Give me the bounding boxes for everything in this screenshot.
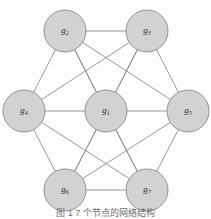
node-layer: g1g2g3g4g5g6g7 <box>3 10 209 211</box>
graph-node-g5[interactable]: g5 <box>167 90 209 132</box>
graph-edge <box>157 130 179 172</box>
graph-node-g7[interactable]: g7 <box>126 169 168 211</box>
graph-node-g4[interactable]: g4 <box>3 90 45 132</box>
graph-diagram: g1g2g3g4g5g6g7 <box>0 0 211 219</box>
figure-container: g1g2g3g4g5g6g7 图 1 7 个节点的网络结构 <box>0 0 211 219</box>
graph-node-g6[interactable]: g6 <box>44 169 86 211</box>
graph-node-g1[interactable]: g1 <box>85 90 127 132</box>
node-label-subscript: 4 <box>25 110 28 116</box>
node-label-subscript: 1 <box>107 110 110 116</box>
graph-node-g3[interactable]: g3 <box>126 10 168 52</box>
node-label-subscript: 3 <box>147 30 151 36</box>
graph-node-g2[interactable]: g2 <box>44 10 86 52</box>
node-label-subscript: 6 <box>66 189 69 195</box>
node-label-subscript: 5 <box>189 110 192 116</box>
graph-edge <box>34 130 56 172</box>
figure-caption: 图 1 7 个节点的网络结构 <box>0 207 211 219</box>
graph-edge <box>34 50 56 93</box>
graph-edge <box>157 50 179 93</box>
node-label-subscript: 2 <box>66 30 69 36</box>
